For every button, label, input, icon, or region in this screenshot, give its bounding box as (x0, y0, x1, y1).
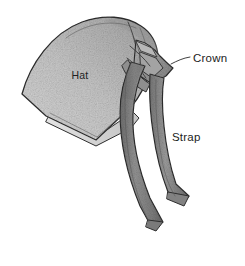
label-hat: Hat (72, 69, 89, 81)
straps-group (120, 62, 189, 231)
label-crown: Crown (193, 52, 227, 64)
label-strap: Strap (172, 131, 201, 143)
hat-diagram-canvas: Hat Crown Strap (0, 0, 245, 266)
crown-leader-line (171, 57, 190, 64)
hat-diagram-figure: Hat Crown Strap (0, 0, 245, 266)
